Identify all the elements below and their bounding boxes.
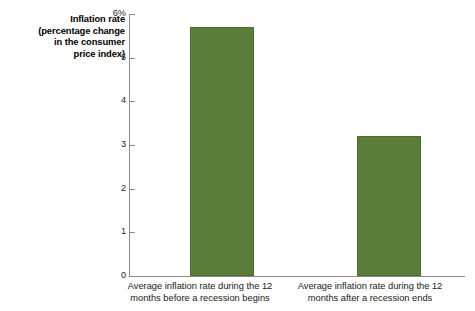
y-axis-tick bbox=[130, 101, 135, 102]
y-axis-tick-label: 3 bbox=[66, 140, 126, 149]
y-axis-tick-label-wrap: 4 bbox=[66, 96, 126, 106]
plot-area: 0123456% bbox=[130, 14, 465, 276]
y-axis-tick-label-wrap: 3 bbox=[66, 140, 126, 150]
x-axis-category-label-line-2: months before a recession begins bbox=[113, 293, 287, 305]
y-axis-tick-label: 6% bbox=[66, 9, 126, 18]
x-axis-category-label-line-1: Average inflation rate during the 12 bbox=[283, 281, 457, 293]
y-axis-tick bbox=[130, 189, 135, 190]
x-axis-category-label-line-1: Average inflation rate during the 12 bbox=[113, 281, 287, 293]
y-axis-tick-label: 4 bbox=[66, 96, 126, 105]
y-axis-tick-label: 1 bbox=[66, 227, 126, 236]
y-axis-tick-label-wrap: 6% bbox=[66, 9, 126, 19]
y-axis-tick-label: 5 bbox=[66, 53, 126, 62]
y-axis-tick-label: 2 bbox=[66, 184, 126, 193]
x-axis-category-label: Average inflation rate during the 12 mon… bbox=[283, 281, 457, 304]
bar-chart: Inflation rate (percentage change in the… bbox=[0, 0, 475, 311]
x-axis-line bbox=[129, 276, 465, 277]
y-axis-tick-label-wrap: 5 bbox=[66, 53, 126, 63]
y-axis-tick-label-wrap: 1 bbox=[66, 227, 126, 237]
y-axis-tick bbox=[130, 276, 135, 277]
x-axis-category-label-line-2: months after a recession ends bbox=[283, 293, 457, 305]
y-axis-tick bbox=[130, 145, 135, 146]
y-axis-tick bbox=[130, 232, 135, 233]
y-axis-tick-label: 0 bbox=[66, 271, 126, 280]
y-axis-tick-label-wrap: 2 bbox=[66, 184, 126, 194]
y-axis-tick bbox=[130, 14, 135, 15]
bar bbox=[357, 136, 421, 276]
y-axis-title-line-3: in the consumer bbox=[12, 36, 125, 48]
y-axis-tick bbox=[130, 58, 135, 59]
y-axis-title-line-2: (percentage change bbox=[12, 25, 125, 37]
x-axis-category-label: Average inflation rate during the 12 mon… bbox=[113, 281, 287, 304]
bar bbox=[190, 27, 254, 276]
y-axis-tick-label-wrap: 0 bbox=[66, 271, 126, 281]
